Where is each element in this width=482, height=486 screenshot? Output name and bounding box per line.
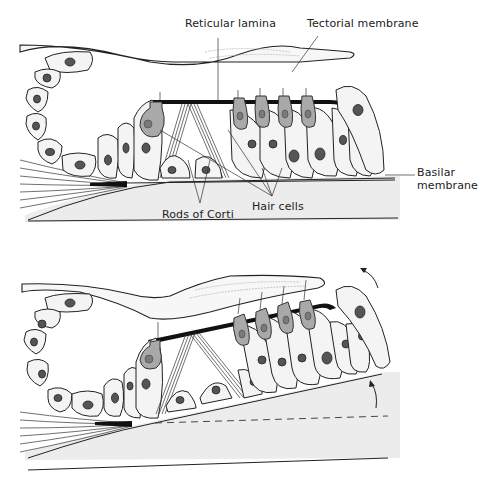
inner-hair-cell-group: [136, 322, 163, 418]
supporting-cells-left: [24, 294, 141, 419]
organ-of-corti-resting-panel: Reticular lamina Tectorial membrane Basi…: [0, 0, 482, 250]
label-rods-of-corti: Rods of Corti: [162, 208, 234, 221]
outer-hair-cells-group: [230, 86, 384, 178]
organ-of-corti-displaced-panel: [0, 262, 482, 486]
outer-hair-cell-1: [233, 90, 248, 129]
label-basilar-membrane-line1: Basilar: [417, 166, 455, 179]
organ-of-corti-resting-illustration: [0, 0, 482, 250]
outer-hair-cell-3: [278, 88, 293, 127]
organ-of-corti-displaced-illustration: [0, 262, 482, 486]
inner-hair-cell-group: [134, 92, 164, 180]
rotation-arrow-tectorial-icon: [360, 268, 378, 288]
supporting-cells-left: [26, 52, 135, 179]
outer-hair-cell-2: [255, 88, 270, 127]
label-basilar-membrane-line2: membrane: [417, 179, 478, 192]
outer-hair-cell-4: [301, 88, 316, 127]
rods-of-corti: [160, 104, 229, 178]
label-hair-cells: Hair cells: [252, 200, 304, 213]
reticular-lamina-bar: [150, 100, 350, 108]
inner-hair-cell: [140, 340, 161, 369]
basilar-membrane-lower-edge: [28, 458, 388, 470]
label-tectorial-membrane: Tectorial membrane: [307, 17, 419, 30]
label-reticular-lamina: Reticular lamina: [185, 17, 276, 30]
